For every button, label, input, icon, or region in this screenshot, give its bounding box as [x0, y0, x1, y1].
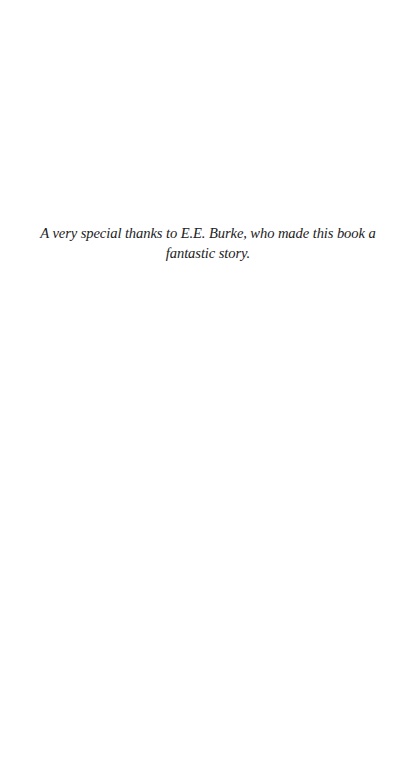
dedication-text: A very special thanks to E.E. Burke, who… — [36, 223, 380, 263]
book-page: A very special thanks to E.E. Burke, who… — [0, 0, 416, 769]
